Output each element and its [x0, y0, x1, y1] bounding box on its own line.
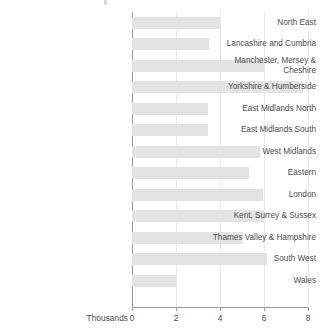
category-label: Yorkshire & Humberside — [192, 82, 320, 92]
category-label: Thames Valley & Hampshire — [192, 233, 320, 243]
x-tick-label: 8 — [293, 313, 320, 323]
category-label: Manchester, Mersey & Cheshire — [192, 56, 320, 75]
category-label: Eastern — [192, 168, 320, 178]
tick-6 — [264, 307, 265, 311]
category-label: South West — [192, 254, 320, 264]
category-label: North East — [192, 18, 320, 28]
clipped-title-artifact — [104, 0, 107, 5]
bar — [132, 275, 176, 287]
tick-4 — [220, 307, 221, 311]
x-tick-label: 2 — [161, 313, 191, 323]
tick-8 — [308, 307, 309, 311]
tick-2 — [176, 307, 177, 311]
tick-0 — [132, 307, 133, 311]
category-label: Lancashire and Cumbria — [192, 39, 320, 49]
category-label: Wales — [192, 276, 320, 286]
x-tick-label: 4 — [205, 313, 235, 323]
bar-chart: North EastLancashire and CumbriaManchest… — [0, 0, 320, 330]
category-label: Kent, Surrey & Sussex — [192, 211, 320, 221]
x-tick-label: 6 — [249, 313, 279, 323]
category-label: East Midlands South — [192, 125, 320, 135]
category-label: London — [192, 190, 320, 200]
x-axis-title: Thousands — [87, 313, 128, 323]
category-label: West Midlands — [192, 147, 320, 157]
category-label: East Midlands North — [192, 104, 320, 114]
